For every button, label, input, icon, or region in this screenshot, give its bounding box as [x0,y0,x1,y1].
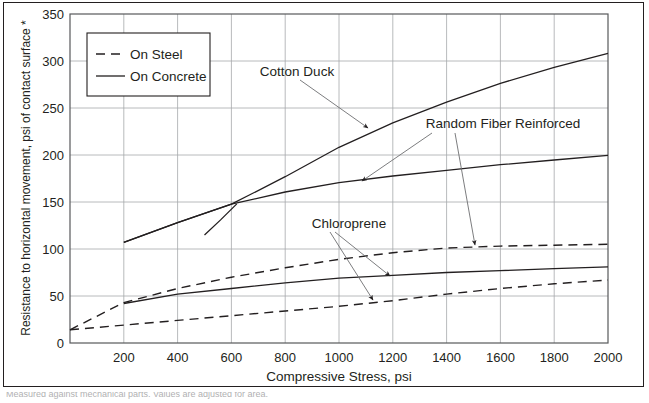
y-tick-250: 250 [42,101,64,116]
y-axis-title: Resistance to horizontal movement, psi o… [19,20,33,336]
x-axis-title: Compressive Stress, psi [266,369,412,384]
x-tick-1400: 1400 [432,350,461,365]
y-tick-300: 300 [42,54,64,69]
y-tick-350: 350 [42,7,64,22]
annotation-random-fiber-reinforced: Random Fiber Reinforced [426,116,581,131]
y-tick-150: 150 [42,195,64,210]
y-tick-0: 0 [57,336,64,351]
x-tick-2000: 2000 [594,350,623,365]
annotation-chloroprene: Chloroprene [312,216,386,231]
x-tick-800: 800 [274,350,296,365]
x-tick-1800: 1800 [540,350,569,365]
x-tick-200: 200 [113,350,135,365]
footnote-text: Measured against mechanical parts. Value… [6,392,426,400]
x-axis-tick-labels: 200 400 600 800 1000 1200 1400 1600 1800… [113,350,623,365]
x-tick-1600: 1600 [486,350,515,365]
figure-container: 350 300 250 200 150 100 50 0 200 400 600… [0,0,649,403]
y-tick-50: 50 [50,289,64,304]
annotation-cotton-duck: Cotton Duck [260,64,335,79]
legend-box [87,33,210,96]
line-chart: 350 300 250 200 150 100 50 0 200 400 600… [0,0,649,403]
legend-label-on-concrete: On Concrete [130,69,207,84]
x-tick-1000: 1000 [325,350,354,365]
x-tick-600: 600 [221,350,243,365]
x-tick-1200: 1200 [378,350,407,365]
x-tick-400: 400 [167,350,189,365]
y-axis-tick-labels: 350 300 250 200 150 100 50 0 [42,7,64,351]
footnote-strip: Measured against mechanical parts. Value… [6,392,426,403]
y-tick-100: 100 [42,242,64,257]
legend-label-on-steel: On Steel [130,47,183,62]
y-tick-200: 200 [42,148,64,163]
chart-legend[interactable]: On Steel On Concrete [87,33,210,96]
